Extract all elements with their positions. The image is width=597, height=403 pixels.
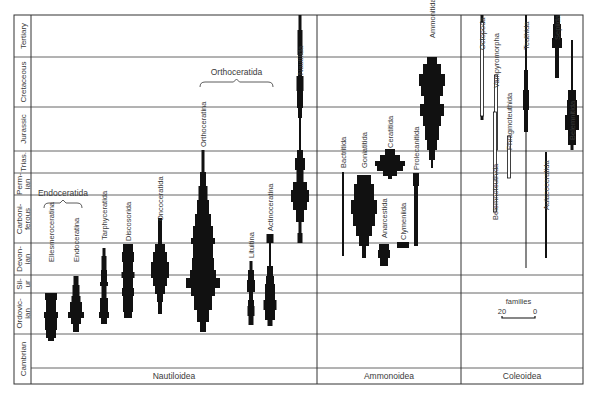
- spindle-ellesmeroceratina: Ellesmeroceratina: [44, 201, 58, 341]
- svg-text:20: 20: [498, 307, 506, 316]
- spindle-prolecanitida: Prolecanitida: [412, 126, 421, 246]
- period-label: Cambrian: [19, 342, 28, 377]
- period-label: Tertiary: [19, 23, 28, 49]
- spindle-ammonitida: Ammonitida: [419, 0, 445, 168]
- spindle-belemnoteuthida: Belemnoteuthida: [491, 112, 500, 220]
- svg-text:Cretaceous: Cretaceous: [19, 62, 28, 103]
- spindle-tarphyceratida: Tarphyceratida: [99, 190, 109, 324]
- period-label: Ordovic-ian: [15, 298, 32, 329]
- svg-text:ian: ian: [23, 254, 32, 265]
- spindle-endoceratina: Endoceratina: [68, 217, 84, 332]
- svg-text:ferous: ferous: [23, 208, 32, 230]
- svg-text:Trias.: Trias.: [19, 152, 28, 172]
- cephalopod-range-chart: TertiaryCretaceousJurassicTrias.Perm-ian…: [0, 0, 597, 403]
- spindle-clymeniida: Clymeniida: [397, 202, 409, 248]
- period-label: Perm-ian: [15, 173, 32, 195]
- taxon-label: Phragmoteuthida: [505, 92, 514, 150]
- svg-text:Cambrian: Cambrian: [19, 342, 28, 377]
- taxon-label: Bactritida: [339, 136, 348, 168]
- taxon-label: Nautilida: [296, 45, 305, 75]
- taxon-label: Octopoda: [478, 17, 487, 50]
- families-scale-bar: families200: [498, 297, 537, 318]
- taxon-label: Sepiida: [553, 14, 562, 40]
- group-label-coleoidea: Coleoidea: [503, 371, 542, 381]
- taxon-label: Endoceratina: [72, 217, 81, 262]
- period-label: Sil-ur: [15, 278, 32, 290]
- svg-text:ian: ian: [23, 308, 32, 319]
- taxon-label: Clymeniida: [399, 202, 408, 240]
- spindle-actinoceratina: Actinoceratina: [264, 183, 277, 326]
- period-label: Devon-ian: [15, 246, 32, 272]
- taxon-label: Teuthida: [522, 21, 531, 50]
- svg-text:ian: ian: [23, 179, 32, 190]
- svg-text:Jurassic: Jurassic: [19, 114, 28, 143]
- spindle-diagram: TertiaryCretaceousJurassicTrias.Perm-ian…: [0, 0, 597, 403]
- group-label-nautiloidea: Nautiloidea: [153, 371, 196, 381]
- taxon-label: Actinoceratina: [266, 183, 275, 231]
- spindle-nautilida: Nautilida: [291, 15, 309, 243]
- period-label: Carboni-ferous: [15, 203, 32, 234]
- taxon-label: Belemnitida: [568, 100, 577, 140]
- taxon-label: Tarphyceratida: [100, 190, 109, 240]
- spindle-orthoceratina: Orthoceratina: [186, 101, 220, 332]
- spindle-aulacoceratida: Aulacoceratida: [542, 152, 551, 258]
- taxon-label: Ammonitida: [428, 0, 437, 38]
- spindle-goniatitida: Goniatitida: [351, 131, 377, 258]
- svg-text:families: families: [506, 297, 532, 306]
- svg-text:Orthoceratida: Orthoceratida: [211, 67, 263, 77]
- taxon-label: Ceratitida: [386, 115, 395, 148]
- group-label-ammonoidea: Ammonoidea: [364, 371, 414, 381]
- taxon-label: Belemnoteuthida: [491, 163, 500, 220]
- spindle-teuthida: Teuthida: [522, 15, 531, 268]
- spindle-ceratitida: Ceratitida: [375, 115, 405, 179]
- spindle-lituitina: Lituitina: [247, 231, 256, 325]
- spindle-phragmoteuthida: Phragmoteuthida: [505, 92, 514, 178]
- taxon-label: Ellesmeroceratina: [47, 201, 56, 262]
- spindle-octopoda: Octopoda: [478, 15, 487, 120]
- svg-text:0: 0: [533, 307, 537, 316]
- bracket-orthoceratida: Orthoceratida: [200, 67, 273, 87]
- svg-text:ur: ur: [23, 280, 32, 287]
- spindle-discosorida: Discosorida: [122, 201, 135, 318]
- svg-text:Endoceratida: Endoceratida: [38, 188, 88, 198]
- period-label: Cretaceous: [19, 62, 28, 103]
- taxon-label: Anarcestida: [380, 198, 389, 238]
- period-label: Trias.: [19, 152, 28, 172]
- bracket-endoceratida: Endoceratida: [38, 188, 88, 208]
- spindle-bactritida: Bactritida: [339, 136, 348, 256]
- taxon-label: Aulacoceratida: [542, 160, 551, 210]
- taxon-label: Goniatitida: [360, 131, 369, 168]
- spindle-belemnitida: Belemnitida: [565, 40, 579, 150]
- taxon-label: Oncoceratida: [156, 176, 165, 221]
- spindle-sepiida: Sepiida: [552, 14, 562, 78]
- taxon-label: Orthoceratina: [199, 101, 208, 147]
- taxon-label: Lituitina: [247, 231, 256, 258]
- svg-text:Tertiary: Tertiary: [19, 23, 28, 49]
- spindle-anarcestida: Anarcestida: [378, 198, 390, 266]
- taxon-label: Vampyromorpha: [492, 32, 501, 88]
- taxon-label: Discosorida: [124, 201, 133, 241]
- taxon-label: Prolecanitida: [412, 126, 421, 170]
- period-label: Jurassic: [19, 114, 28, 143]
